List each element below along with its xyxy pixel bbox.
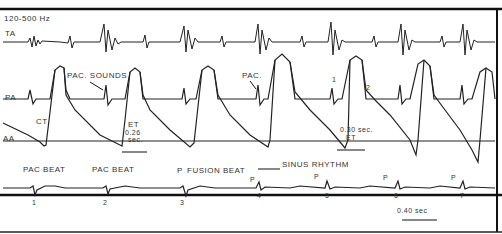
sound-1-label: 1 — [332, 76, 336, 83]
beat-6: 6 — [394, 192, 398, 199]
beat-3: 3 — [180, 199, 184, 206]
et2-value: 0.30 sec. — [340, 126, 373, 133]
pac-sounds-arrow — [90, 82, 103, 90]
filter-label: 120-500 Hz — [4, 14, 50, 23]
beat-1: 1 — [32, 199, 36, 206]
p-wave-5: P — [314, 173, 319, 180]
pac-beat-1-label: PAC BEAT — [23, 165, 65, 174]
channel-label-ta: TA — [5, 29, 16, 38]
et2-label: ET — [346, 134, 356, 141]
beat-2: 2 — [103, 199, 107, 206]
ta-trace — [3, 22, 495, 55]
pac-beat-2-label: PAC BEAT — [92, 165, 134, 174]
p-wave-7: P — [451, 174, 456, 181]
p-wave-4: P — [250, 176, 255, 183]
beat-5: 5 — [325, 192, 329, 199]
fusion-beat-label: FUSION BEAT — [187, 166, 245, 175]
et1-value: 0.26 — [125, 129, 141, 136]
sinus-rhythm-label: SINUS RHYTHM — [282, 160, 349, 169]
et1-unit: sec. — [128, 136, 143, 143]
beat-7: 7 — [460, 192, 464, 199]
et1-label: ET — [128, 120, 139, 129]
pac-label: PAC. — [242, 71, 262, 80]
pac-sounds-label: PAC. SOUNDS — [67, 71, 127, 80]
ct-label: CT — [36, 117, 48, 126]
waveform-figure: 120-500 Hz TA PA AA PAC. SOUNDS PAC. CT … — [0, 0, 502, 234]
time-scale-label: 0.40 sec — [397, 207, 427, 214]
pac-arrow — [250, 81, 256, 89]
p-wave-6: P — [383, 174, 388, 181]
fusion-p-label: P — [177, 166, 183, 175]
channel-label-aa: AA — [3, 134, 15, 143]
beat-4: 4 — [257, 192, 261, 199]
channel-label-pa: PA — [5, 93, 16, 102]
sound-2-label: 2 — [366, 84, 370, 91]
